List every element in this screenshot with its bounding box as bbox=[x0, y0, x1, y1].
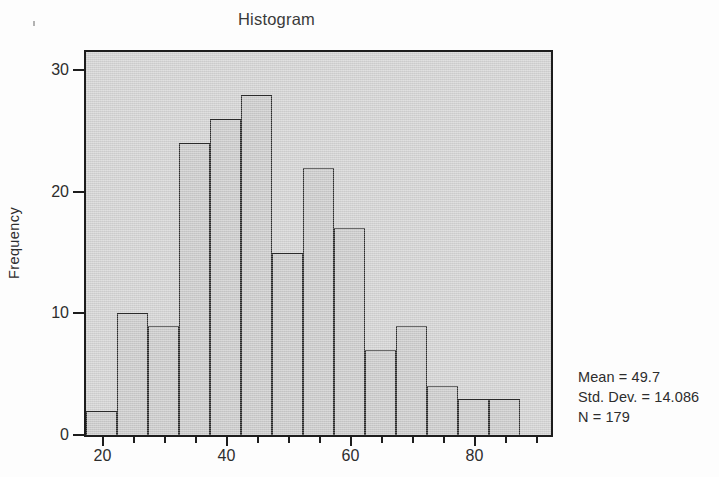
y-axis-title: Frequency bbox=[6, 207, 22, 279]
x-axis-tick-major bbox=[226, 437, 228, 446]
histogram-bar bbox=[365, 350, 396, 435]
histogram-bar bbox=[179, 143, 210, 435]
y-axis-tick-label: 0 bbox=[60, 426, 69, 444]
histogram-bar bbox=[396, 326, 427, 435]
y-axis-tick-label: 20 bbox=[51, 183, 69, 201]
stat-std-dev: Std. Dev. = 14.086 bbox=[578, 387, 699, 407]
histogram-bar bbox=[303, 168, 334, 435]
x-axis-tick-minor bbox=[412, 437, 414, 443]
statistics-annotation: Mean = 49.7 Std. Dev. = 14.086 N = 179 bbox=[578, 367, 699, 427]
x-axis-tick-label: 60 bbox=[342, 447, 360, 465]
histogram-bar bbox=[117, 313, 148, 435]
histogram-figure: Histogram Frequency 0102030 20406080 Mea… bbox=[0, 0, 719, 477]
y-axis-tick bbox=[73, 69, 84, 71]
histogram-bar bbox=[86, 411, 117, 435]
y-axis-tick bbox=[73, 191, 84, 193]
histogram-bar bbox=[334, 228, 365, 435]
x-axis-tick-minor bbox=[164, 437, 166, 443]
y-axis-tick bbox=[73, 312, 84, 314]
x-axis-tick-minor bbox=[381, 437, 383, 443]
histogram-bar bbox=[427, 386, 458, 435]
y-axis-tick bbox=[73, 434, 84, 436]
y-axis-tick-label: 30 bbox=[51, 61, 69, 79]
x-axis-tick-minor bbox=[195, 437, 197, 443]
x-axis: 20406080 bbox=[84, 437, 553, 477]
y-axis: Frequency 0102030 bbox=[0, 0, 84, 477]
histogram-bar bbox=[489, 399, 520, 435]
histogram-bar bbox=[148, 326, 179, 435]
x-axis-tick-minor bbox=[443, 437, 445, 443]
x-axis-tick-minor bbox=[536, 437, 538, 443]
x-axis-tick-label: 40 bbox=[218, 447, 236, 465]
x-axis-tick-minor bbox=[319, 437, 321, 443]
x-axis-tick-minor bbox=[505, 437, 507, 443]
x-axis-tick-minor bbox=[288, 437, 290, 443]
bars-layer bbox=[86, 52, 551, 435]
histogram-bar bbox=[458, 399, 489, 435]
x-axis-tick-minor bbox=[133, 437, 135, 443]
y-axis-tick-label: 10 bbox=[51, 304, 69, 322]
histogram-bar bbox=[210, 119, 241, 435]
x-axis-tick-major bbox=[474, 437, 476, 446]
stat-n: N = 179 bbox=[578, 407, 699, 427]
x-axis-tick-label: 80 bbox=[466, 447, 484, 465]
stat-mean: Mean = 49.7 bbox=[578, 367, 699, 387]
x-axis-tick-major bbox=[350, 437, 352, 446]
x-axis-tick-minor bbox=[257, 437, 259, 443]
plot-area bbox=[84, 50, 553, 437]
histogram-bar bbox=[272, 253, 303, 435]
x-axis-tick-major bbox=[102, 437, 104, 446]
x-axis-tick-label: 20 bbox=[94, 447, 112, 465]
histogram-bar bbox=[241, 95, 272, 435]
